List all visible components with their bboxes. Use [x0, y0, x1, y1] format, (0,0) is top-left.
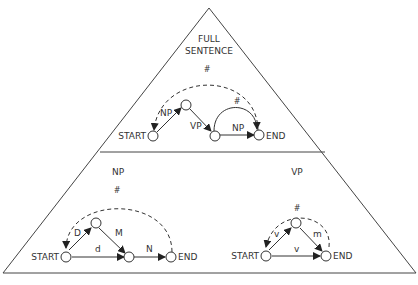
np-title: NP [112, 167, 125, 177]
M-edge-label: M [115, 228, 123, 238]
np2-edge-label: NP [232, 123, 245, 133]
vp-end-label: END [333, 251, 352, 261]
np-start-label: START [31, 252, 59, 262]
start-label: START [118, 131, 146, 141]
np-edge-label: NP [160, 108, 173, 118]
np-network: NP # D M d N START END [31, 167, 197, 262]
transition-network-diagram: FULL SENTENCE # NP VP NP # START END NP … [0, 0, 418, 285]
m-edge-label: m [313, 229, 322, 239]
vp-title: VP [291, 167, 303, 177]
end-node [321, 251, 331, 261]
start-node [61, 252, 71, 262]
start-node [261, 251, 271, 261]
state-node [210, 131, 220, 141]
v-edge [269, 228, 291, 250]
start-node [148, 131, 158, 141]
hash-outer-label: # [204, 65, 211, 74]
vp-start-label: START [231, 251, 259, 261]
end-label: END [266, 131, 285, 141]
vp-network: VP # v m v START END [231, 167, 352, 261]
np-hash-label: # [114, 186, 121, 195]
v-edge-label: v [274, 229, 280, 239]
end-node [166, 252, 176, 262]
state-node [291, 218, 301, 228]
end-node [254, 130, 264, 140]
vp-edge-label: VP [190, 121, 202, 131]
state-node [181, 100, 191, 110]
full-sentence-title-line2: SENTENCE [185, 46, 233, 56]
D-edge-label: D [74, 228, 81, 238]
state-node [91, 218, 101, 228]
N-edge-label: N [146, 244, 153, 254]
d-edge-label: d [95, 244, 101, 254]
vp-hash-label: # [294, 204, 301, 213]
hash-inner-label: # [234, 97, 241, 106]
v2-edge-label: v [294, 244, 300, 254]
full-sentence-network: FULL SENTENCE # NP VP NP # START END [118, 34, 285, 141]
state-node [124, 252, 134, 262]
np-end-label: END [178, 252, 197, 262]
full-sentence-title-line1: FULL [198, 34, 220, 44]
